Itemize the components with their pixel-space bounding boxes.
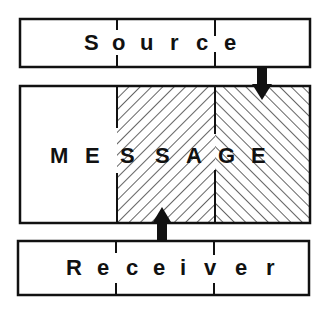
svg-text:e: e (224, 30, 236, 55)
svg-text:r: r (170, 30, 179, 55)
svg-text:c: c (196, 30, 208, 55)
communication-diagram: S o u r c e M E S S A G E (0, 0, 327, 316)
svg-text:e: e (153, 255, 165, 280)
svg-text:u: u (140, 30, 153, 55)
svg-text:S: S (155, 143, 170, 168)
source-box (20, 19, 310, 67)
svg-text:e: e (97, 255, 109, 280)
svg-text:G: G (218, 143, 235, 168)
svg-text:e: e (235, 255, 247, 280)
svg-text:S: S (120, 143, 135, 168)
svg-text:M: M (50, 143, 68, 168)
svg-text:R: R (66, 255, 82, 280)
message-label: M E S S A G E (50, 143, 266, 168)
svg-text:i: i (180, 255, 186, 280)
svg-text:r: r (266, 255, 275, 280)
svg-text:c: c (126, 255, 138, 280)
svg-text:v: v (204, 255, 217, 280)
svg-text:E: E (251, 143, 266, 168)
svg-text:o: o (112, 30, 125, 55)
svg-text:E: E (85, 143, 100, 168)
svg-text:S: S (84, 30, 99, 55)
svg-text:A: A (186, 143, 202, 168)
